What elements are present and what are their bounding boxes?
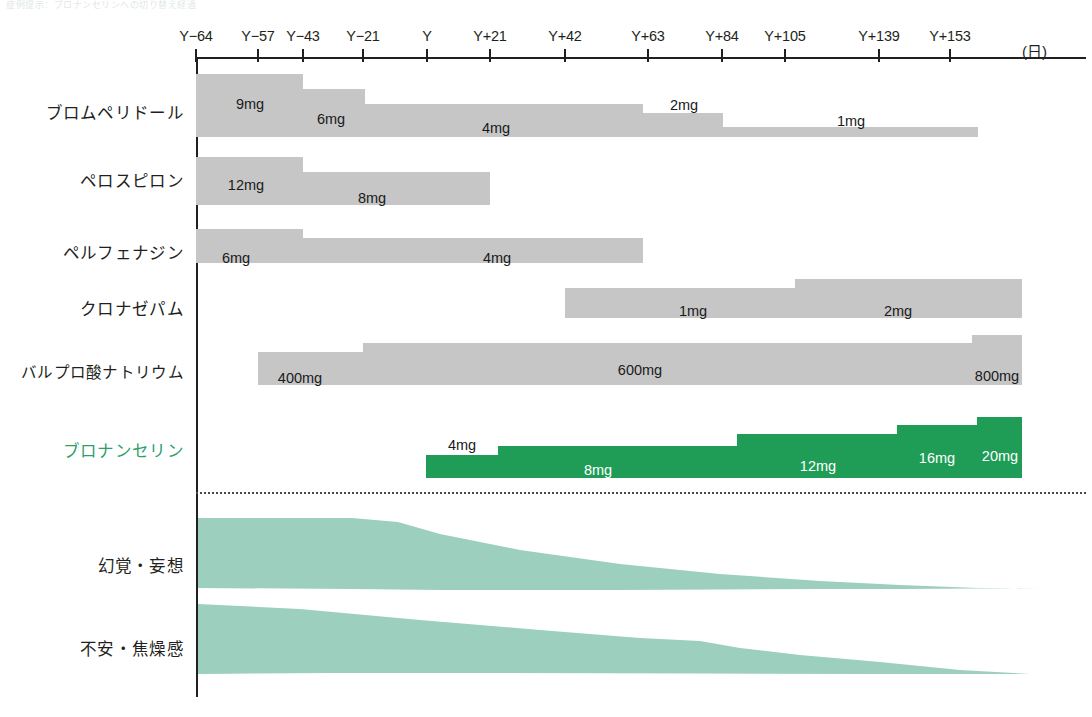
symptom-label-1: 幻覚・妄想 (0, 553, 184, 577)
symptom-band-1 (198, 518, 1040, 590)
symptom-band-2 (198, 604, 1030, 674)
symptom-bands (0, 0, 1092, 717)
treatment-timeline-chart: 症例提示：ブロナンセリンへの切り替え経過 Y−64Y−57Y−43Y−21YY+… (0, 0, 1092, 717)
symptom-label-2: 不安・焦燥感 (0, 636, 184, 660)
